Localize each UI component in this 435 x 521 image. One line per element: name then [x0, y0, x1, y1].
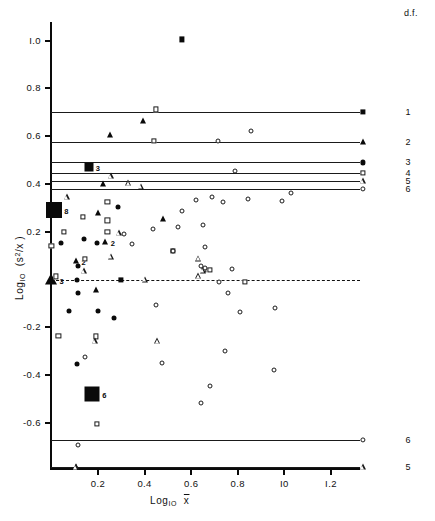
legend-marker-open-triangle: [360, 178, 366, 184]
x-axis-title-subscript: IO: [169, 500, 178, 507]
y-axis-title-variable: (s: [14, 257, 25, 267]
legend-marker-filled-square: [360, 110, 365, 115]
legend-df-value: 1: [405, 107, 410, 117]
legend-header-label: d.f.: [404, 8, 418, 18]
y-axis-title-prefix: Log: [14, 282, 25, 301]
y-axis-title-tail: /x ): [14, 236, 25, 252]
x-axis-title: LogIO x: [150, 495, 189, 507]
legend-df-value: 5: [405, 462, 410, 472]
open-triangle-inner: [360, 465, 364, 469]
legend-marker-open-square: [360, 171, 365, 176]
legend-marker-filled-circle: [360, 160, 365, 165]
legend-df-value: 3: [405, 157, 410, 167]
y-axis-title-subscript: IO: [19, 273, 26, 282]
y-axis-title-superscript: 2: [14, 252, 21, 257]
legend-marker-open-triangle: [360, 464, 366, 470]
legend-df-value: 2: [405, 137, 410, 147]
y-axis-title: LogIO (s2/x ): [14, 236, 26, 300]
x-axis-title-variable: x: [184, 495, 190, 506]
legend-marker-filled-triangle: [360, 139, 366, 145]
scatter-plot-figure: I.00.80.60.40.2-0.2-0.4-0.60.20.40.60.8I…: [0, 0, 435, 521]
legend-marker-open-circle: [360, 186, 365, 191]
legend-layer: 12345665: [0, 0, 435, 521]
open-triangle-inner: [360, 179, 364, 183]
x-axis-title-prefix: Log: [150, 495, 169, 506]
legend-df-value: 6: [405, 184, 410, 194]
legend-marker-open-circle: [360, 437, 365, 442]
legend-df-value: 6: [405, 435, 410, 445]
